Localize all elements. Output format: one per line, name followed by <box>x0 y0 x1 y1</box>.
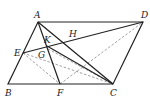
geometry-diagram: A D B C F E G K H <box>0 0 150 112</box>
label-C: C <box>110 88 117 98</box>
label-H: H <box>68 29 77 39</box>
label-G: G <box>38 50 45 60</box>
label-K: K <box>43 35 52 45</box>
label-B: B <box>4 88 12 98</box>
segment-ED <box>23 22 143 53</box>
label-D: D <box>140 10 148 20</box>
label-F: F <box>56 88 64 98</box>
label-E: E <box>13 48 21 58</box>
label-A: A <box>33 10 41 20</box>
